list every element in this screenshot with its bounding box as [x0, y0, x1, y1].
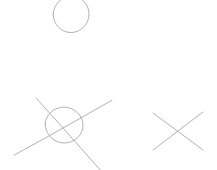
- sketch-surface[interactable]: [0, 0, 217, 170]
- sketch-canvas[interactable]: [0, 0, 217, 170]
